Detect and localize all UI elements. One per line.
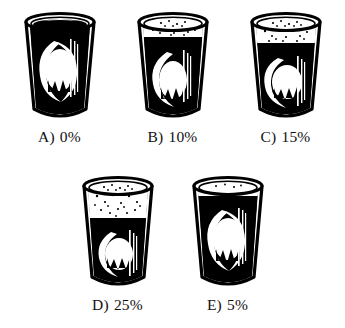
option-a-value: 0% bbox=[60, 128, 81, 145]
option-c-label: C) bbox=[261, 128, 277, 145]
option-b[interactable]: B)10% bbox=[116, 8, 229, 146]
beer-glass-d bbox=[72, 172, 164, 294]
options-row-top: A)0% bbox=[0, 8, 345, 146]
figure-beer-glasses: A)0% bbox=[0, 0, 345, 328]
option-d-caption: D)25% bbox=[92, 296, 143, 314]
beer-glass-c bbox=[240, 8, 332, 126]
option-e[interactable]: E)5% bbox=[173, 172, 283, 314]
option-d[interactable]: D)25% bbox=[63, 172, 173, 314]
option-d-label: D) bbox=[92, 296, 109, 313]
option-e-label: E) bbox=[207, 296, 222, 313]
option-b-value: 10% bbox=[168, 128, 197, 145]
option-b-caption: B)10% bbox=[148, 128, 198, 146]
option-b-label: B) bbox=[148, 128, 164, 145]
option-c[interactable]: C)15% bbox=[229, 8, 342, 146]
option-e-value: 5% bbox=[227, 296, 248, 313]
option-a[interactable]: A)0% bbox=[3, 8, 116, 146]
option-a-label: A) bbox=[38, 128, 55, 145]
option-c-caption: C)15% bbox=[261, 128, 311, 146]
beer-glass-a bbox=[14, 8, 106, 126]
options-row-bottom: D)25% bbox=[0, 172, 345, 314]
beer-glass-b bbox=[127, 8, 219, 126]
option-e-caption: E)5% bbox=[207, 296, 248, 314]
option-c-value: 15% bbox=[281, 128, 310, 145]
option-a-caption: A)0% bbox=[38, 128, 81, 146]
beer-glass-e bbox=[182, 172, 274, 294]
option-d-value: 25% bbox=[114, 296, 143, 313]
